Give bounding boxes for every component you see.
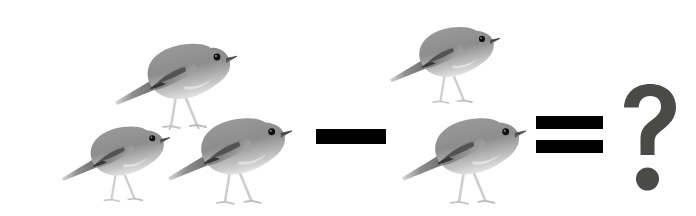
bird-eye-1 [214, 54, 221, 61]
bird-eye-5 [502, 128, 509, 135]
bird-image-4 [388, 4, 500, 110]
minus-bar [316, 129, 386, 144]
question-mark-label: ? [682, 82, 683, 83]
bird-image-5 [400, 96, 526, 208]
bird-eye-2 [149, 135, 155, 141]
bird-eye-4 [479, 36, 485, 42]
bird-subtraction-puzzle: Three grey birds minus one grey bird equ… [0, 0, 696, 216]
bird-image-3 [166, 96, 292, 208]
bird-legs-2 [104, 173, 142, 201]
question-mark-dot [636, 168, 659, 191]
equals-bar-top [536, 116, 603, 129]
bird-eye-3 [268, 128, 275, 135]
bird-legs-5 [451, 171, 495, 204]
minus-operator: − [316, 129, 386, 144]
question-mark-icon [620, 82, 682, 192]
equals-bar-bottom [536, 140, 603, 153]
equals-operator: = [536, 116, 603, 153]
bird-legs-3 [217, 171, 261, 204]
puzzle-description: Three grey birds minus one grey bird equ… [0, 0, 1, 1]
answer-question-mark: ? [620, 82, 682, 192]
bird-image-2 [60, 104, 170, 208]
